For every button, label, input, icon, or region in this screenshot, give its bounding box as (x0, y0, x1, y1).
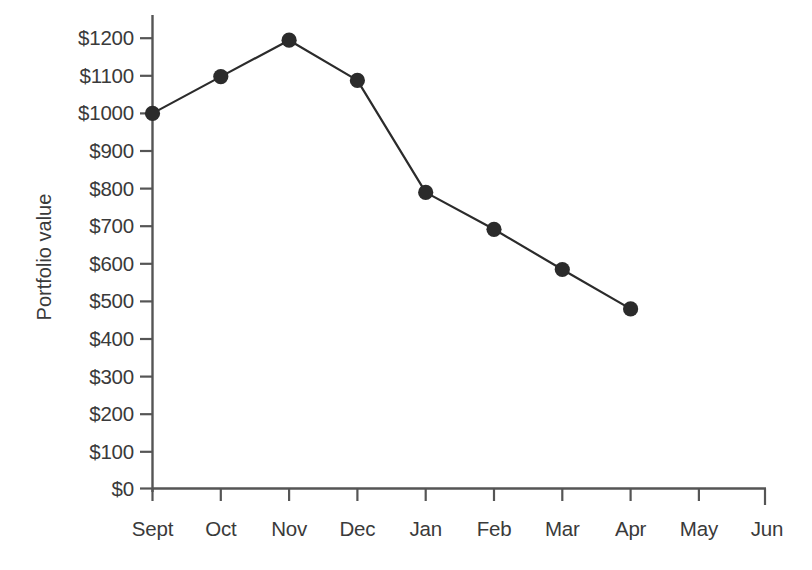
data-point-sept (145, 106, 160, 121)
x-axis-ticks (153, 489, 766, 506)
y-axis-ticks (140, 38, 153, 488)
x-tick-label-feb: Feb (477, 519, 512, 540)
x-tick-label-nov: Nov (271, 519, 307, 540)
y-tick-label-1200: $1200 (54, 28, 134, 49)
y-tick-label-300: $300 (54, 366, 134, 387)
x-tick-label-sept: Sept (132, 519, 173, 540)
data-point-dec (350, 73, 365, 88)
x-tick-label-oct: Oct (205, 519, 236, 540)
data-point-markers (145, 33, 638, 317)
y-tick-label-400: $400 (54, 329, 134, 350)
y-tick-label-600: $600 (54, 254, 134, 275)
line-chart: Portfolio value $1200 $1100 $1000 $900 $… (0, 0, 812, 570)
y-tick-label-1000: $1000 (54, 103, 134, 124)
data-point-apr (623, 301, 638, 316)
x-tick-label-apr: Apr (615, 519, 646, 540)
data-point-jan (418, 185, 433, 200)
x-tick-label-jun: Jun (751, 519, 783, 540)
x-tick-label-may: May (680, 519, 718, 540)
y-tick-label-200: $200 (54, 404, 134, 425)
y-axis-title: Portfolio value (34, 177, 54, 337)
y-tick-label-800: $800 (54, 178, 134, 199)
y-tick-label-100: $100 (54, 442, 134, 463)
y-tick-label-1100: $1100 (54, 66, 134, 87)
x-tick-label-mar: Mar (545, 519, 580, 540)
y-tick-label-700: $700 (54, 216, 134, 237)
data-point-mar (555, 262, 570, 277)
y-tick-label-0: $0 (54, 478, 134, 499)
data-point-feb (486, 222, 501, 237)
y-tick-label-500: $500 (54, 291, 134, 312)
y-tick-label-900: $900 (54, 141, 134, 162)
data-point-nov (282, 33, 297, 48)
x-tick-label-jan: Jan (409, 519, 441, 540)
data-point-oct (213, 69, 228, 84)
x-tick-label-dec: Dec (339, 519, 375, 540)
